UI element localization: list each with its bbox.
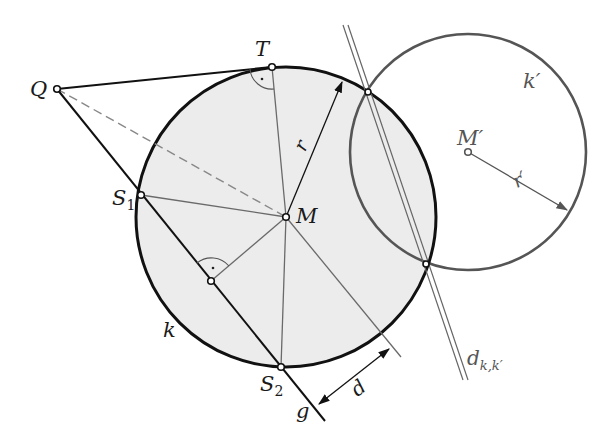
- point-s2: [278, 364, 285, 371]
- label-q: Q: [30, 77, 47, 101]
- right-angle-dot-t: [261, 78, 264, 81]
- label-s1-sub: 1: [126, 197, 135, 213]
- label-k-prime: k′: [523, 69, 541, 93]
- label-m-prime: M′: [456, 126, 484, 150]
- label-g: g: [296, 399, 309, 423]
- label-s1: S1: [112, 186, 135, 213]
- label-s2: S2: [260, 372, 283, 399]
- label-r-prime: r′: [508, 166, 531, 192]
- point-m: [283, 214, 290, 221]
- label-t: T: [255, 37, 271, 61]
- label-d: d: [346, 374, 371, 401]
- point-s1: [138, 192, 145, 199]
- label-s2-main: S: [260, 372, 274, 396]
- point-foot: [208, 278, 215, 285]
- label-m: M: [295, 204, 318, 228]
- geometry-diagram: Q T M S1 S2 k g r d k′ M′ r′ dk,k′: [0, 0, 612, 443]
- label-s2-sub: 2: [274, 383, 283, 399]
- label-k: k: [163, 318, 176, 342]
- point-t: [269, 64, 276, 71]
- point-intersection-2: [423, 261, 429, 267]
- label-s1-main: S: [112, 186, 126, 210]
- point-intersection-1: [365, 89, 371, 95]
- label-radical-axis-sub: k,k′: [480, 358, 503, 373]
- label-radical-axis-main: d: [467, 346, 480, 370]
- right-angle-dot-f: [212, 267, 215, 270]
- label-radical-axis: dk,k′: [467, 346, 503, 373]
- point-q: [54, 86, 61, 93]
